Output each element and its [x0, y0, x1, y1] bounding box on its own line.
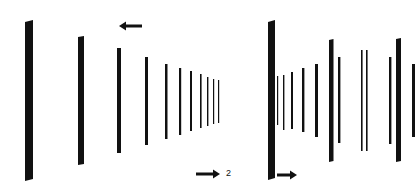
- left-bar-2: [78, 36, 84, 165]
- left-bar-3: [117, 48, 121, 153]
- left-bar-11: [218, 80, 219, 123]
- right-bar-9: [361, 50, 363, 151]
- right-bar-5: [302, 68, 304, 132]
- right-bar-12: [396, 38, 401, 162]
- right-bar-10: [366, 50, 368, 151]
- diagram-canvas: [0, 0, 419, 192]
- right-arrow-1-head-icon: [290, 171, 297, 180]
- left-bar-5: [165, 64, 168, 139]
- right-bar-13: [412, 64, 415, 137]
- figure-label-2: 2: [226, 168, 231, 178]
- left-panel: [25, 20, 219, 181]
- right-bar-11: [389, 57, 391, 144]
- left-bar-7: [190, 71, 192, 131]
- right-bar-4: [291, 72, 293, 129]
- left-bar-1: [25, 20, 33, 181]
- right-bar-7: [329, 39, 334, 162]
- left-arrow-1-head-icon: [119, 22, 126, 31]
- right-panel: [268, 20, 415, 180]
- right-bar-6: [315, 64, 318, 137]
- right-bar-8: [338, 57, 340, 143]
- right-bar-3: [283, 75, 284, 130]
- left-bar-9: [207, 77, 208, 126]
- left-bar-4: [145, 57, 148, 145]
- arrow-label-2-head-icon: [213, 170, 220, 179]
- right-bar-1: [268, 20, 275, 180]
- right-bar-2: [277, 76, 278, 125]
- left-bar-10: [213, 79, 214, 124]
- left-bar-6: [179, 68, 181, 135]
- left-bar-8: [200, 74, 202, 128]
